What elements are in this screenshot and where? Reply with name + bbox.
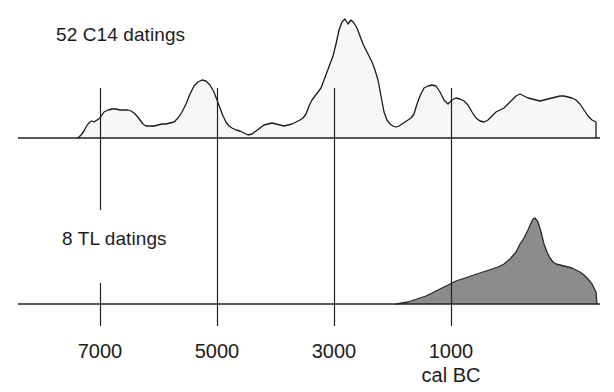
x-tick-label-1000: 1000 [429, 340, 474, 363]
chart-canvas [0, 0, 614, 392]
x-tick-label-5000: 5000 [195, 340, 240, 363]
x-tick-label-3000: 3000 [312, 340, 357, 363]
x-axis-unit-label: cal BC [422, 364, 481, 387]
figure-container: 52 C14 datings 8 TL datings 7000 5000 30… [0, 0, 614, 392]
c14-panel-label: 52 C14 datings [56, 24, 185, 46]
tl-panel-label: 8 TL datings [62, 228, 167, 250]
x-tick-label-7000: 7000 [78, 340, 123, 363]
tl-series-group [396, 218, 597, 304]
tl-area-fill [396, 218, 597, 304]
